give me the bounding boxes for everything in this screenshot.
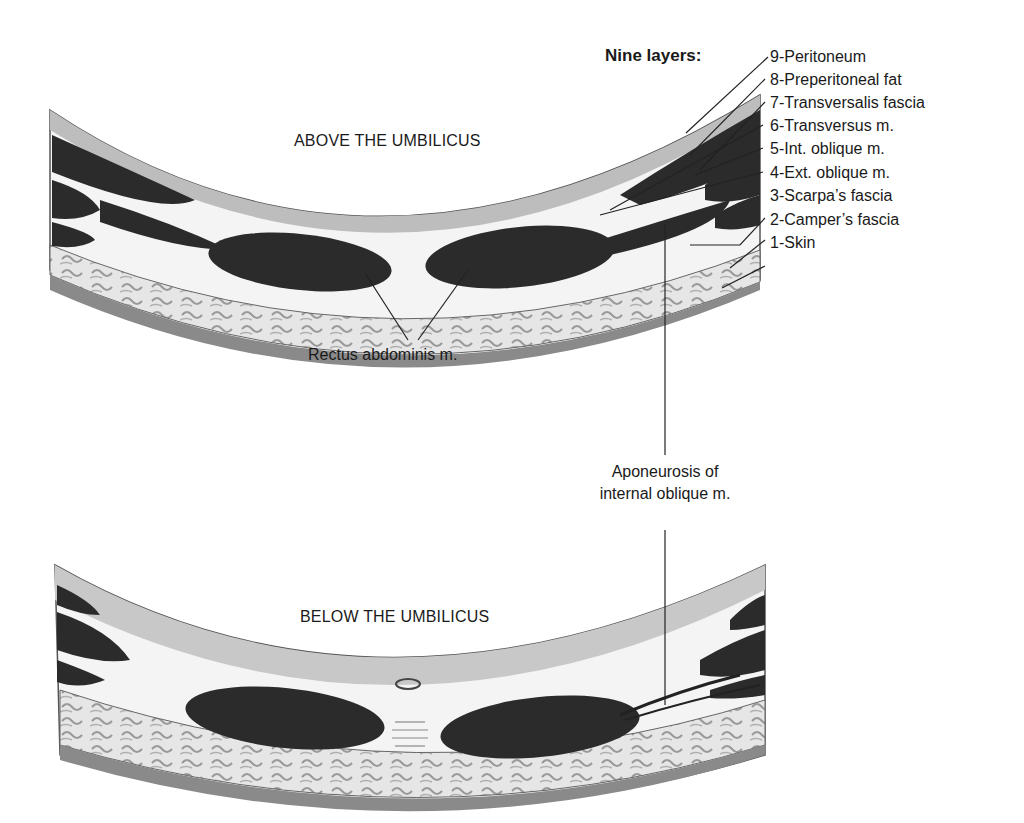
layer-label-3: 3-Scarpa’s fascia [770, 188, 892, 204]
layers-title: Nine layers: [605, 47, 701, 64]
aponeurosis-label-line2: internal oblique m. [580, 486, 750, 502]
layer-label-9: 9-Peritoneum [770, 49, 866, 65]
rectus-abdominis-label: Rectus abdominis m. [308, 347, 457, 363]
layer-label-1: 1-Skin [770, 235, 815, 251]
layer-label-4: 4-Ext. oblique m. [770, 165, 890, 181]
layer-label-7: 7-Transversalis fascia [770, 95, 925, 111]
layer-label-5: 5-Int. oblique m. [770, 141, 885, 157]
below-umbilicus-section [55, 565, 765, 811]
layer-label-2: 2-Camper’s fascia [770, 212, 899, 228]
aponeurosis-label-line1: Aponeurosis of [600, 464, 730, 480]
above-umbilicus-heading: ABOVE THE UMBILICUS [294, 133, 481, 149]
layer-label-6: 6-Transversus m. [770, 118, 894, 134]
below-umbilicus-heading: BELOW THE UMBILICUS [300, 609, 489, 625]
layer-label-8: 8-Preperitoneal fat [770, 72, 902, 88]
